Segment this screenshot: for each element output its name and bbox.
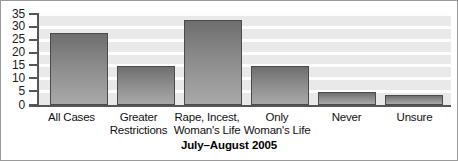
y-tick xyxy=(29,39,37,41)
x-axis-label-unsure: Unsure xyxy=(381,111,448,124)
y-axis-tick-label: 25 xyxy=(0,33,25,45)
chart-subtitle: July–August 2005 xyxy=(1,139,457,151)
y-tick xyxy=(29,13,37,15)
y-axis-line xyxy=(37,13,39,106)
x-axis-line xyxy=(29,105,451,107)
x-axis-label-only-womans-life: Only Woman's Life xyxy=(242,111,312,137)
bar-unsure xyxy=(385,95,443,105)
y-tick xyxy=(29,77,37,79)
x-axis-label-all-cases: All Cases xyxy=(38,111,105,124)
x-axis-label-never: Never xyxy=(313,111,380,124)
x-axis-label-rape-incest-womans-life: Rape, Incest, Woman's Life xyxy=(172,111,242,137)
y-axis-tick-label: 20 xyxy=(0,46,25,58)
y-axis-tick-label: 35 xyxy=(0,8,25,20)
bar-greater-restrictions xyxy=(117,66,175,105)
y-axis-tick-label: 5 xyxy=(0,85,25,97)
y-tick xyxy=(29,64,37,66)
bar-never xyxy=(318,92,376,105)
y-tick xyxy=(29,26,37,28)
y-tick xyxy=(29,52,37,54)
y-axis-tick-label: 30 xyxy=(0,20,25,32)
bar-rape-incest-womans-life xyxy=(184,20,242,105)
gridline xyxy=(38,26,451,29)
y-tick xyxy=(29,104,37,106)
y-axis-tick-label: 10 xyxy=(0,72,25,84)
gridline xyxy=(38,13,451,16)
y-axis-tick-label: 15 xyxy=(0,59,25,71)
bar-only-womans-life xyxy=(251,66,309,105)
y-tick xyxy=(29,90,37,92)
x-axis-label-greater-restrictions: Greater Restrictions xyxy=(105,111,172,137)
y-axis-tick-label: 0 xyxy=(0,99,25,111)
bar-chart-figure: 35 30 25 20 15 10 5 0 All Cases Greater … xyxy=(0,0,458,161)
plot-area xyxy=(38,13,451,105)
bar-all-cases xyxy=(50,33,108,105)
